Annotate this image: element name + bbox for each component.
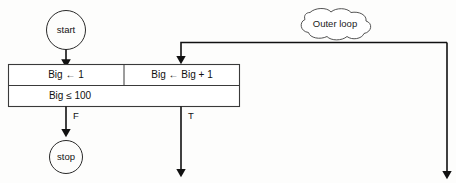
flowchart-canvas: start Big ← 1 Big ← Big + 1 Big ≤ 100 F … <box>0 0 456 183</box>
node-stop: stop <box>50 141 83 174</box>
stop-label: stop <box>57 151 75 162</box>
true-branch-label: T <box>188 110 194 121</box>
outer-loop-label: Outer loop <box>313 18 357 29</box>
increment-cell-label: Big ← Big + 1 <box>151 69 213 80</box>
start-label: start <box>57 24 76 35</box>
false-branch-label: F <box>73 110 79 121</box>
condition-cell-label: Big ≤ 100 <box>49 90 92 101</box>
flowchart-diagram: start Big ← 1 Big ← Big + 1 Big ≤ 100 F … <box>0 0 456 183</box>
node-start: start <box>47 11 86 50</box>
init-cell-label: Big ← 1 <box>48 69 84 80</box>
edge-outer-loop-return <box>181 43 447 61</box>
process-box: Big ← 1 Big ← Big + 1 Big ≤ 100 <box>9 65 240 107</box>
outer-loop-callout: Outer loop <box>301 8 370 39</box>
